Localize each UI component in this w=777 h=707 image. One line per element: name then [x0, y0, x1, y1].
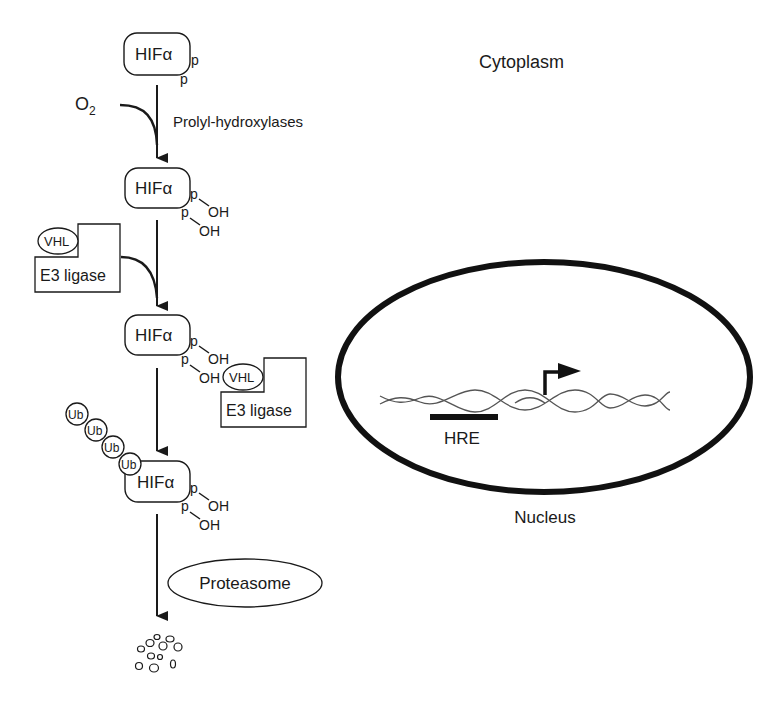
- hydroxyl-group-1: OH: [208, 204, 229, 220]
- hif-alpha-unmodified: HIFα p p: [124, 33, 199, 87]
- ubiquitin-label: Ub: [68, 408, 84, 422]
- oxygen-input-curve: [120, 105, 157, 145]
- hif-alpha-label: HIFα: [137, 473, 174, 492]
- hif-alpha-label: HIFα: [135, 179, 172, 198]
- hydroxyl-group-1: OH: [208, 351, 229, 367]
- e3-ligase-label: E3 ligase: [226, 402, 292, 419]
- proline-site-1: p: [191, 52, 199, 68]
- vhl-label: VHL: [44, 234, 69, 249]
- vhl-e3-ligase-complex: VHL E3 ligase: [35, 224, 120, 292]
- proline-site-2: p: [181, 204, 189, 220]
- ubiquitin-label: Ub: [121, 458, 137, 472]
- proteasome: Proteasome: [168, 559, 322, 607]
- proteasome-label: Proteasome: [199, 574, 291, 593]
- hif-pathway-diagram: Cytoplasm HIFα p p O2 Prolyl-hydroxylase…: [0, 0, 777, 707]
- vhl-label: VHL: [229, 370, 254, 385]
- proline-site-2: p: [181, 351, 189, 367]
- cytoplasm-label: Cytoplasm: [479, 52, 564, 72]
- ubiquitin-chain: Ub Ub Ub Ub: [66, 403, 141, 475]
- hydroxyl-group-1: OH: [208, 498, 229, 514]
- proline-site-2: p: [180, 71, 188, 87]
- proline-site-1: p: [190, 186, 198, 202]
- e3-ligase-input-curve: [121, 257, 157, 298]
- proline-site-1: p: [190, 480, 198, 496]
- hif-alpha-vhl-bound: HIFα p OH p OH VHL E3 ligase: [125, 315, 306, 427]
- proline-site-2: p: [181, 498, 189, 514]
- dna-helix-icon: [380, 390, 670, 412]
- e3-ligase-label: E3 ligase: [40, 267, 106, 284]
- oxygen-label: O2: [75, 94, 96, 118]
- proline-site-1: p: [190, 333, 198, 349]
- hif-alpha-hydroxylated: HIFα p OH p OH: [125, 168, 229, 239]
- hydroxyl-group-2: OH: [199, 517, 220, 533]
- hydroxyl-group-2: OH: [199, 223, 220, 239]
- hre-bar: [430, 414, 498, 420]
- ubiquitin-label: Ub: [87, 424, 103, 438]
- hif-alpha-label: HIFα: [135, 45, 172, 64]
- nucleus: HRE Nucleus: [338, 262, 750, 527]
- peptide-fragments-icon: [136, 635, 183, 673]
- prolyl-hydroxylases-label: Prolyl-hydroxylases: [173, 113, 303, 130]
- ubiquitin-label: Ub: [104, 441, 120, 455]
- nucleus-label: Nucleus: [514, 508, 575, 527]
- hre-label: HRE: [444, 429, 480, 448]
- hydroxyl-group-2: OH: [199, 370, 220, 386]
- hif-alpha-label: HIFα: [135, 326, 172, 345]
- hif-alpha-ubiquitinated: HIFα p OH p OH Ub Ub Ub Ub: [66, 403, 229, 533]
